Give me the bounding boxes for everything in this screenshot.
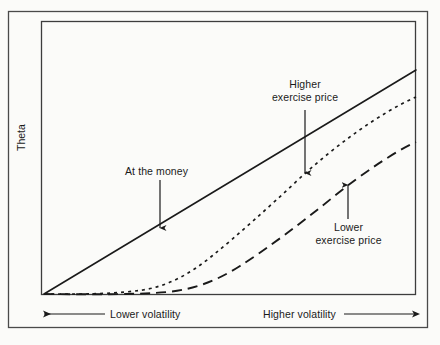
annotation-lower-exercise-price-line1: Lower bbox=[295, 221, 402, 234]
plot-frame bbox=[42, 22, 416, 295]
annotation-higher-exercise-price-line1: Higher bbox=[250, 78, 360, 91]
annotation-lower-exercise-price-line2: exercise price bbox=[295, 234, 402, 247]
annotation-higher-exercise-price-line2: exercise price bbox=[250, 91, 360, 104]
y-axis-label: Theta bbox=[15, 137, 27, 151]
series-higher-exercise-price bbox=[44, 97, 416, 294]
annotation-at-the-money: At the money bbox=[125, 165, 188, 178]
theta-volatility-chart: Theta At the money Higher exercise price… bbox=[0, 0, 440, 345]
outer-border bbox=[9, 12, 428, 328]
annotation-lower-exercise-price: Lower exercise price bbox=[295, 221, 402, 246]
x-axis-lower-volatility-label: Lower volatility bbox=[110, 308, 180, 321]
x-axis-higher-volatility-label: Higher volatility bbox=[263, 308, 336, 321]
series-at-the-money bbox=[44, 70, 416, 294]
chart-canvas bbox=[0, 0, 440, 345]
series-lower-exercise-price bbox=[44, 142, 416, 294]
annotation-higher-exercise-price: Higher exercise price bbox=[250, 78, 360, 103]
